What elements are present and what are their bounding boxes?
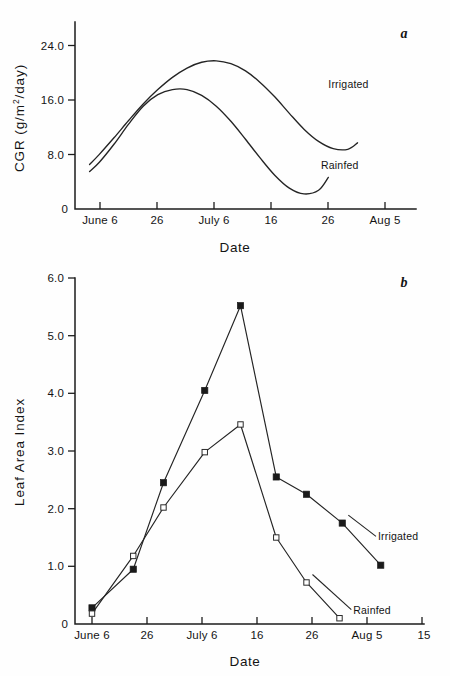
chart-panel-a: a 24.0 16.0 8.0 0 June 6 — [0, 0, 450, 270]
series-line-irrigated-b — [92, 306, 381, 608]
x-tick-label-a-2: July 6 — [198, 214, 229, 226]
y-tick-label-b-3: 3.0 — [47, 445, 64, 457]
y-tick-label-a-2: 16.0 — [41, 94, 64, 106]
x-ticks-b — [92, 617, 422, 624]
y-tick-label-b-0: 0 — [61, 618, 68, 630]
y-tick-label-b-6: 6.0 — [47, 272, 64, 284]
y-axis-title-a-tail: /day) — [12, 64, 27, 99]
data-point-marker — [89, 605, 95, 611]
series-markers-rainfed-b — [89, 422, 342, 621]
data-point-marker — [130, 566, 136, 572]
x-ticks-a — [100, 202, 385, 209]
y-tick-label-b-5: 5.0 — [47, 330, 64, 342]
y-tick-label-a-0: 0 — [61, 203, 68, 215]
data-point-marker — [378, 562, 384, 568]
series-markers-irrigated-b — [89, 303, 384, 611]
series-label-rainfed-a: Rainfed — [321, 159, 359, 171]
axis-lines-a — [75, 22, 416, 209]
data-point-marker — [339, 520, 345, 526]
x-tick-label-a-0: June 6 — [82, 214, 118, 226]
leader-rainfed-b — [313, 575, 352, 610]
data-point-marker — [160, 480, 166, 486]
svg-text:CGR (g/m2/day): CGR (g/m2/day) — [11, 64, 27, 172]
x-tick-label-a-1: 26 — [150, 214, 163, 226]
series-label-irrigated-a: Irrigated — [328, 78, 368, 90]
y-axis-title-b: Leaf Area Index — [12, 398, 27, 506]
x-tick-label-b-4: 26 — [305, 629, 318, 641]
curve-rainfed-a — [90, 89, 329, 194]
data-point-marker — [238, 422, 243, 427]
x-axis-title-a: Date — [220, 240, 251, 255]
leader-irrigated-b — [348, 515, 376, 536]
x-tick-label-b-6: 15 — [417, 629, 430, 641]
x-tick-label-b-1: 26 — [140, 629, 153, 641]
data-point-marker — [202, 387, 208, 393]
figure-canvas: a 24.0 16.0 8.0 0 June 6 — [0, 0, 450, 676]
data-point-marker — [161, 505, 166, 510]
data-point-marker — [273, 474, 279, 480]
y-tick-label-a-3: 24.0 — [41, 40, 64, 52]
data-point-marker — [237, 303, 243, 309]
chart-b-svg: b 6.0 5.0 4.0 3.0 2.0 1.0 0 — [0, 262, 450, 676]
x-tick-label-b-3: 16 — [250, 629, 263, 641]
x-tick-label-a-5: Aug 5 — [369, 214, 400, 226]
panel-label-a: a — [401, 26, 408, 41]
y-ticks-b — [68, 278, 75, 566]
y-axis-title-b-text: Leaf Area Index — [12, 398, 27, 506]
chart-a-svg: a 24.0 16.0 8.0 0 June 6 — [0, 0, 450, 270]
series-label-irrigated-b: Irrigated — [378, 530, 418, 542]
data-point-marker — [304, 580, 309, 585]
panel-label-b: b — [401, 275, 408, 290]
x-tick-label-b-2: July 6 — [186, 629, 217, 641]
series-label-rainfed-b: Rainfed — [353, 604, 391, 616]
data-point-marker — [131, 553, 136, 558]
y-ticks-a — [68, 46, 75, 155]
y-tick-label-b-4: 4.0 — [47, 387, 64, 399]
x-tick-label-b-0: June 6 — [74, 629, 110, 641]
data-point-marker — [202, 449, 207, 454]
y-axis-title-a: CGR (g/m2/day) — [11, 64, 27, 172]
chart-panel-b: b 6.0 5.0 4.0 3.0 2.0 1.0 0 — [0, 262, 450, 676]
data-point-marker — [274, 535, 279, 540]
data-point-marker — [337, 616, 342, 621]
data-point-marker — [303, 491, 309, 497]
x-tick-label-a-3: 16 — [264, 214, 277, 226]
axis-lines-b — [75, 278, 424, 624]
x-axis-title-b: Date — [230, 654, 261, 669]
y-tick-label-a-1: 8.0 — [47, 149, 64, 161]
y-tick-label-b-1: 1.0 — [47, 560, 64, 572]
y-axis-title-a-main: CGR (g/m — [12, 104, 27, 172]
y-tick-label-b-2: 2.0 — [47, 503, 64, 515]
x-tick-label-a-4: 26 — [321, 214, 334, 226]
data-point-marker — [89, 611, 94, 616]
series-line-rainfed-b — [92, 424, 340, 618]
x-tick-label-b-5: Aug 5 — [351, 629, 382, 641]
